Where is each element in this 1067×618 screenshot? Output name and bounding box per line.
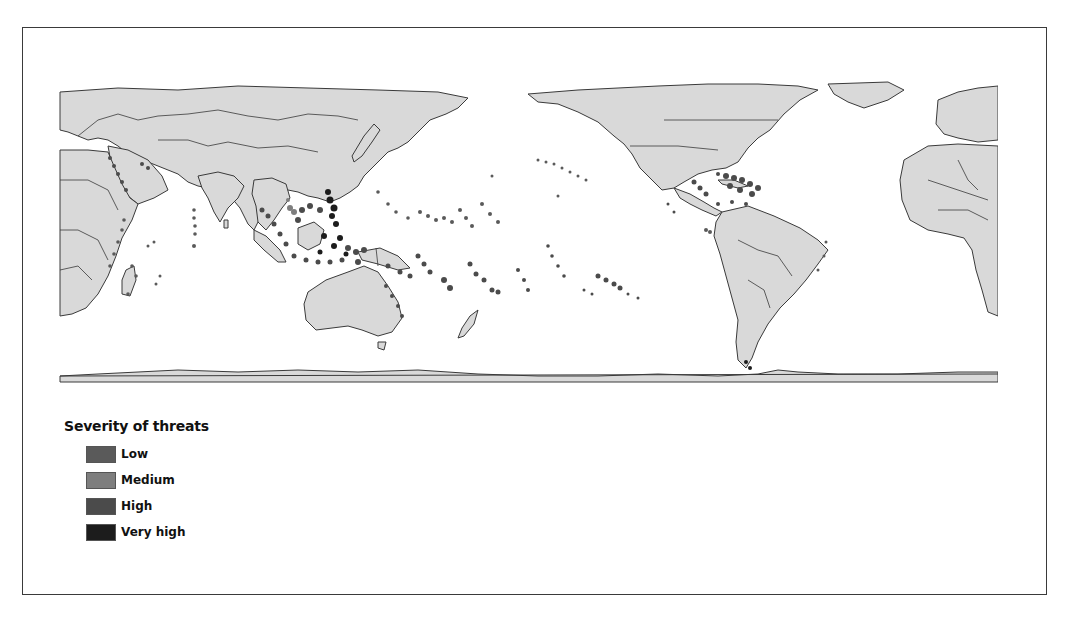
indochina: [252, 178, 290, 230]
legend-swatch-high: [86, 498, 116, 515]
new-zealand: [458, 310, 478, 338]
sri-lanka: [224, 220, 228, 228]
africa-west: [900, 144, 998, 316]
legend-swatch-low: [86, 446, 116, 463]
legend-item-very-high: Very high: [86, 522, 209, 542]
legend: Severity of threats Low Medium High Very…: [64, 418, 209, 548]
australia: [304, 266, 402, 336]
legend-label-high: High: [121, 499, 152, 513]
north-america: [528, 84, 818, 190]
legend-swatch-medium: [86, 472, 116, 489]
world-map: [58, 80, 998, 385]
legend-swatch-very-high: [86, 524, 116, 541]
legend-label-medium: Medium: [121, 473, 175, 487]
madagascar: [122, 266, 136, 296]
south-america: [714, 206, 828, 368]
legend-title: Severity of threats: [64, 418, 209, 434]
legend-label-low: Low: [121, 447, 148, 461]
legend-item-medium: Medium: [86, 470, 209, 490]
borneo: [298, 222, 324, 250]
greenland: [828, 82, 904, 108]
legend-label-very-high: Very high: [121, 525, 185, 539]
map-svg: [58, 80, 998, 385]
europe-west: [936, 86, 998, 142]
central-america: [674, 188, 722, 216]
legend-item-high: High: [86, 496, 209, 516]
india: [198, 172, 244, 222]
tasmania: [378, 342, 386, 350]
legend-item-low: Low: [86, 444, 209, 464]
